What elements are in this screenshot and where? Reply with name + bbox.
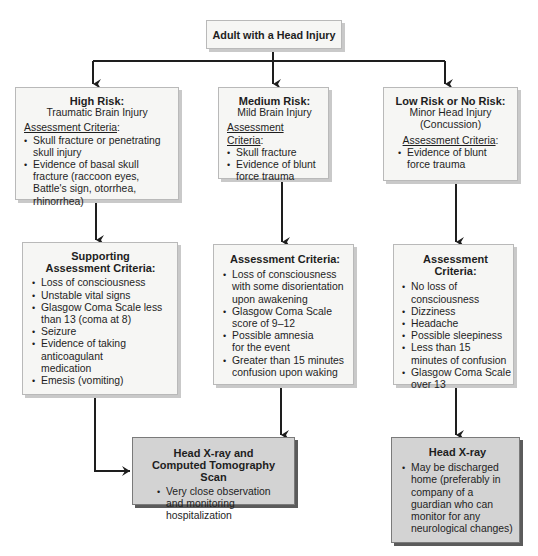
- ct-outcome-title-2: Computed Tomography Scan: [139, 459, 288, 483]
- list-item: No loss of consciousness: [402, 281, 486, 305]
- medium-risk-title: Medium Risk:: [227, 95, 322, 107]
- list-item: Seizure: [32, 326, 165, 338]
- list-item: Unstable vital signs: [32, 290, 165, 302]
- xray-outcome-title: Head X-ray: [402, 446, 513, 458]
- medium-risk-criteria-label: Assessment Criteria:: [227, 122, 322, 146]
- ct-outcome-list: Very close observation and monitoring ho…: [139, 486, 282, 523]
- high-support-list: Loss of consciousness Unstable vital sig…: [32, 277, 169, 387]
- medium-risk-subtitle: Mild Brain Injury: [227, 107, 322, 119]
- medium-assess-box: Assessment Criteria: Loss of consciousne…: [213, 244, 354, 385]
- list-item: Possible amnesia for the event: [223, 330, 327, 354]
- list-item: Headache: [402, 318, 509, 330]
- low-risk-subtitle-1: Minor Head Injury: [392, 107, 509, 119]
- medium-risk-list: Skull fracture Evidence of blunt force t…: [227, 147, 322, 184]
- low-assess-title: Assessment Criteria:: [402, 253, 509, 277]
- high-risk-box: High Risk: Traumatic Brain Injury Assess…: [15, 87, 179, 200]
- high-support-box: Supporting Assessment Criteria: Loss of …: [22, 242, 178, 395]
- low-assess-box: Assessment Criteria: No loss of consciou…: [393, 244, 514, 385]
- list-item: Greater than 15 minutes confusion upon w…: [223, 355, 347, 379]
- low-assess-list: No loss of consciousness Dizziness Heada…: [402, 281, 509, 391]
- list-item: Evidence of blunt force trauma: [398, 147, 493, 171]
- list-item: Less than 15 minutes of confusion: [402, 342, 509, 366]
- low-risk-criteria-label: Assessment Criteria:: [392, 135, 509, 147]
- xray-outcome-box: Head X-ray May be discharged home (prefe…: [391, 437, 520, 543]
- high-risk-subtitle: Traumatic Brain Injury: [24, 107, 170, 119]
- list-item: Glasgow Coma Scale score of 9–12: [223, 306, 337, 330]
- medium-assess-list: Loss of consciousness with some disorien…: [223, 269, 347, 379]
- list-item: Glasgow Coma Scale over 13: [402, 367, 511, 391]
- xray-outcome-list: May be discharged home (preferably in co…: [402, 462, 513, 535]
- high-risk-criteria-label: Assessment Criteria:: [24, 122, 170, 134]
- low-risk-box: Low Risk or No Risk: Minor Head Injury (…: [383, 87, 518, 181]
- list-item: Loss of consciousness with some disorien…: [223, 269, 347, 306]
- list-item: Emesis (vomiting): [32, 375, 165, 387]
- high-support-title: Supporting Assessment Criteria:: [32, 250, 169, 274]
- list-item: Dizziness: [402, 306, 509, 318]
- ct-outcome-box: Head X-ray and Computed Tomography Scan …: [132, 437, 295, 505]
- ct-outcome-title-1: Head X-ray and: [139, 447, 288, 459]
- list-item: Evidence of blunt force trauma: [227, 159, 322, 183]
- list-item: Skull fracture or penetrating skull inju…: [24, 135, 170, 159]
- list-item: Skull fracture: [227, 147, 322, 159]
- low-risk-title: Low Risk or No Risk:: [392, 95, 509, 107]
- list-item: Glasgow Coma Scale less than 13 (coma at…: [32, 302, 165, 326]
- list-item: Loss of consciousness: [32, 277, 165, 289]
- list-item: Possible sleepiness: [402, 330, 509, 342]
- medium-assess-title: Assessment Criteria:: [223, 253, 347, 265]
- high-risk-list: Skull fracture or penetrating skull inju…: [24, 135, 170, 208]
- list-item: Evidence of taking anticoagulant medicat…: [32, 338, 141, 375]
- list-item: Evidence of basal skull fracture (raccoo…: [24, 159, 170, 208]
- medium-risk-box: Medium Risk: Mild Brain Injury Assessmen…: [218, 87, 329, 179]
- list-item: May be discharged home (preferably in co…: [402, 462, 513, 535]
- list-item: Very close observation and monitoring ho…: [157, 486, 282, 523]
- low-risk-subtitle-2: (Concussion): [392, 119, 509, 131]
- root-title: Adult with a Head Injury: [207, 29, 341, 41]
- root-box: Adult with a Head Injury: [206, 20, 342, 49]
- low-risk-list: Evidence of blunt force trauma: [392, 147, 493, 171]
- high-risk-title: High Risk:: [24, 95, 170, 107]
